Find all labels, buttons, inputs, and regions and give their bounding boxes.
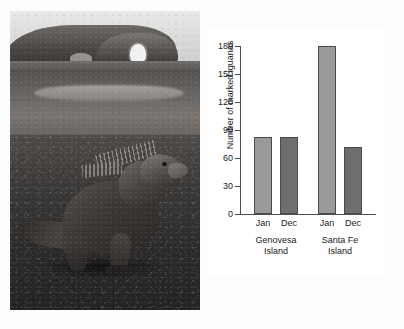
y-tick-0	[235, 214, 240, 215]
bar-genovesa-island-jan	[254, 137, 272, 214]
month-label-3: Dec	[336, 218, 370, 228]
bar-santa-fe-island-jan	[318, 46, 336, 214]
photo-film-grain	[10, 11, 200, 310]
group-label-santa-fe-island: Santa FeIsland	[306, 235, 374, 257]
y-tick-120	[235, 102, 240, 103]
y-tick-label-90: 90	[223, 126, 233, 135]
group-label-line1: Santa Fe	[306, 235, 374, 246]
y-tick-label-30: 30	[223, 182, 233, 191]
group-label-line1: Genovesa	[242, 235, 310, 246]
y-tick-30	[235, 186, 240, 187]
y-tick-60	[235, 158, 240, 159]
y-tick-label-0: 0	[228, 210, 233, 219]
y-tick-90	[235, 130, 240, 131]
y-tick-label-120: 120	[218, 98, 233, 107]
y-tick-label-60: 60	[223, 154, 233, 163]
month-label-1: Dec	[272, 218, 306, 228]
bar-genovesa-island-dec	[280, 137, 298, 214]
y-tick-label-150: 150	[218, 70, 233, 79]
group-label-genovesa-island: GenovesaIsland	[242, 235, 310, 257]
bar-chart-panel: Number of marked iguanas 030609012015018…	[208, 28, 385, 275]
bar-santa-fe-island-dec	[344, 147, 362, 214]
y-tick-180	[235, 46, 240, 47]
group-label-line2: Island	[306, 246, 374, 257]
group-label-line2: Island	[242, 246, 310, 257]
plot-area: 0306090120150180 JanDecJanDec GenovesaIs…	[240, 46, 376, 214]
iguana-photograph	[10, 11, 200, 310]
x-axis-line	[240, 214, 376, 215]
y-axis-line	[240, 46, 241, 214]
y-tick-150	[235, 74, 240, 75]
y-tick-label-180: 180	[218, 42, 233, 51]
